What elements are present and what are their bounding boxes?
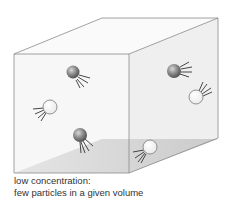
concentration-box-diagram (0, 0, 235, 200)
caption-line-2: few particles in a given volume (14, 187, 143, 199)
caption-line-1: low concentration: (14, 175, 143, 187)
caption: low concentration: few particles in a gi… (14, 175, 143, 199)
